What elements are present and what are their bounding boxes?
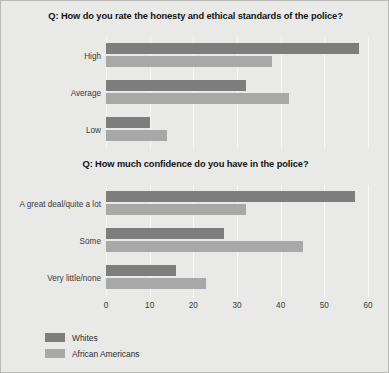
x-tick-40: 40: [276, 301, 285, 310]
category-label-very-little-none: Very little/none: [47, 274, 101, 283]
bar-whites-a-great-deal-quite-a-lot: [106, 191, 355, 202]
x-axis: 0102030405060: [106, 301, 368, 317]
bar-row-high: High: [106, 41, 368, 71]
x-tick-60: 60: [363, 301, 372, 310]
legend-item-whites: Whites: [45, 331, 140, 344]
bar-row-average: Average: [106, 78, 368, 108]
x-tick-20: 20: [189, 301, 198, 310]
legend-label-whites: Whites: [72, 333, 98, 343]
x-tick-10: 10: [145, 301, 154, 310]
legend-item-african-americans: African Americans: [45, 347, 140, 360]
bar-african-americans-low: [106, 130, 167, 141]
chart-figure: Q: How do you rate the honesty and ethic…: [0, 0, 389, 373]
bar-african-americans-very-little-none: [106, 278, 206, 289]
bar-whites-very-little-none: [106, 265, 176, 276]
category-label-some: Some: [80, 237, 101, 246]
bar-row-very-little-none: Very little/none: [106, 263, 368, 293]
chart-panel-confidence: Q: How much confidence do you have in th…: [1, 159, 389, 309]
x-tick-30: 30: [232, 301, 241, 310]
gridline-60: [368, 37, 369, 149]
plot-area-honesty: HighAverageLow: [106, 37, 368, 149]
chart-title-honesty: Q: How do you rate the honesty and ethic…: [1, 11, 389, 21]
bar-african-americans-some: [106, 241, 303, 252]
x-tick-0: 0: [104, 301, 109, 310]
category-label-high: High: [84, 52, 101, 61]
legend-label-african-americans: African Americans: [72, 349, 140, 359]
chart-legend: Whites African Americans: [45, 331, 140, 363]
gridline-60: [368, 185, 369, 297]
bar-african-americans-average: [106, 93, 289, 104]
bar-row-low: Low: [106, 115, 368, 145]
legend-swatch-african-americans: [45, 349, 65, 358]
chart-title-confidence: Q: How much confidence do you have in th…: [1, 159, 389, 169]
category-label-average: Average: [71, 89, 101, 98]
bar-row-a-great-deal-quite-a-lot: A great deal/quite a lot: [106, 189, 368, 219]
bar-row-some: Some: [106, 226, 368, 256]
bar-african-americans-high: [106, 56, 272, 67]
legend-swatch-whites: [45, 333, 65, 342]
x-tick-50: 50: [320, 301, 329, 310]
bar-african-americans-a-great-deal-quite-a-lot: [106, 204, 246, 215]
bar-whites-low: [106, 117, 150, 128]
bar-whites-average: [106, 80, 246, 91]
bar-whites-high: [106, 43, 359, 54]
category-label-a-great-deal-quite-a-lot: A great deal/quite a lot: [20, 200, 101, 209]
chart-panel-honesty: Q: How do you rate the honesty and ethic…: [1, 11, 389, 159]
category-label-low: Low: [86, 126, 101, 135]
plot-area-confidence: A great deal/quite a lotSomeVery little/…: [106, 185, 368, 297]
bar-whites-some: [106, 228, 224, 239]
